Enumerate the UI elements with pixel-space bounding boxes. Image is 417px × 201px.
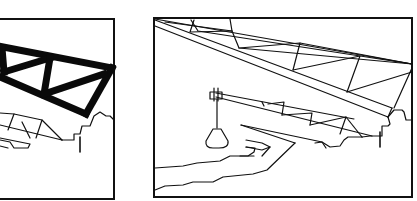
left-panel: [0, 0, 120, 201]
left-panel-drawing: [0, 0, 120, 201]
left-frame: [0, 19, 114, 199]
right-panel-drawing: [150, 12, 417, 201]
right-panel: [150, 12, 417, 201]
